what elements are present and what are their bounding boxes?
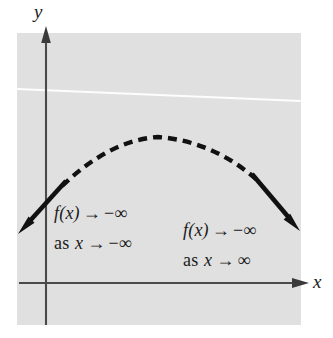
limit-value: −∞ (104, 203, 127, 223)
annotation-right: f(x)→−∞ as x→∞ (183, 215, 256, 275)
as-keyword: as (183, 250, 198, 270)
annotation-left-line2: as x→−∞ (54, 228, 132, 258)
limit-value: −∞ (109, 233, 132, 253)
annotation-right-line1: f(x)→−∞ (183, 215, 256, 245)
limit-value: ∞ (238, 250, 251, 270)
function-notation: f(x) (183, 220, 209, 240)
annotation-right-line2: as x→∞ (183, 245, 256, 275)
right-arrow-icon: → (84, 233, 108, 253)
x-axis-label: x (313, 272, 321, 291)
variable-x: x (74, 233, 84, 253)
as-keyword: as (54, 233, 69, 253)
function-notation: f(x) (54, 203, 80, 223)
right-arrow-icon: → (209, 220, 233, 240)
right-arrow-icon: → (80, 203, 104, 223)
right-arrow-icon: → (213, 250, 237, 270)
y-axis-label: y (34, 2, 42, 21)
annotation-left: f(x)→−∞ as x→−∞ (54, 198, 132, 258)
variable-x: x (203, 250, 213, 270)
diagram-canvas (0, 0, 333, 338)
limit-value: −∞ (233, 220, 256, 240)
end-behavior-diagram: y x f(x)→−∞ as x→−∞ f(x)→−∞ as x→∞ (0, 0, 333, 338)
annotation-left-line1: f(x)→−∞ (54, 198, 132, 228)
